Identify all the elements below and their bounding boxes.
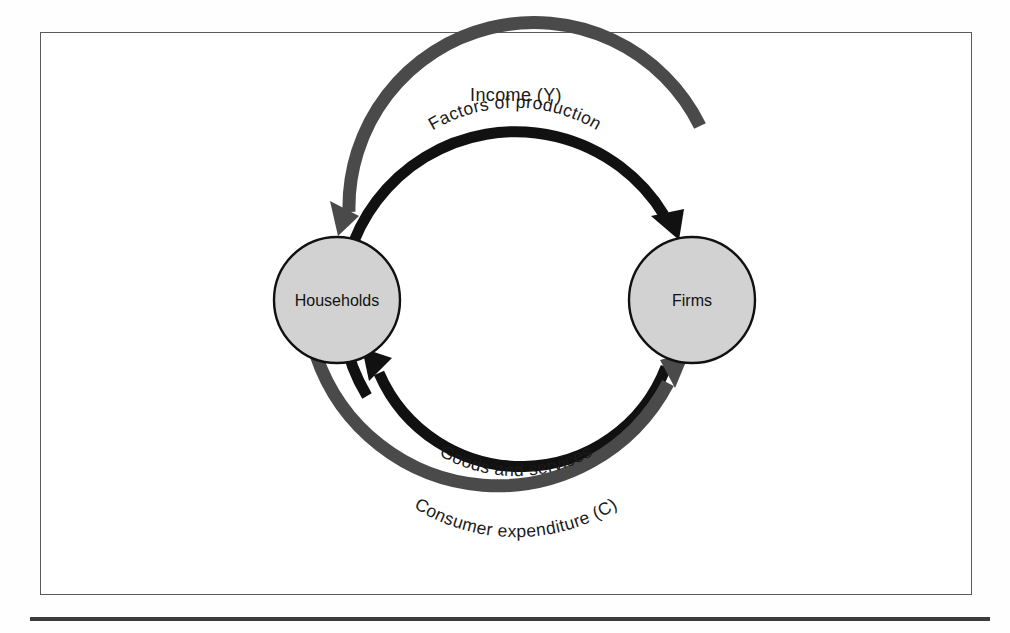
bottom-rule-divider [30, 617, 990, 621]
figure-frame [40, 32, 972, 595]
figure-page: Households Firms Income (Y) Factors of p… [0, 0, 1010, 633]
